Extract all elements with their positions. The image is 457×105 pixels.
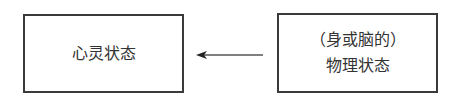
physical-state-box: （身或脑的） 物理状态 bbox=[277, 13, 438, 93]
mental-state-label: 心灵状态 bbox=[72, 41, 136, 67]
physical-state-line1: （身或脑的） bbox=[310, 27, 406, 53]
physical-state-line2: 物理状态 bbox=[326, 53, 390, 79]
arrow-left-icon bbox=[196, 49, 264, 61]
mental-state-box: 心灵状态 bbox=[23, 14, 184, 93]
